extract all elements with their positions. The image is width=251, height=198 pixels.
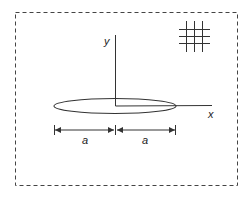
grid-icon: [179, 21, 210, 52]
x-axis-label: x: [207, 108, 214, 120]
dimension-lines: [55, 125, 176, 135]
dimension-label-left: a: [82, 134, 88, 146]
diagram-canvas: y x a a: [0, 0, 251, 198]
x-axis: [116, 106, 213, 107]
dimension-label-right: a: [142, 134, 148, 146]
y-axis-label: y: [103, 35, 111, 47]
